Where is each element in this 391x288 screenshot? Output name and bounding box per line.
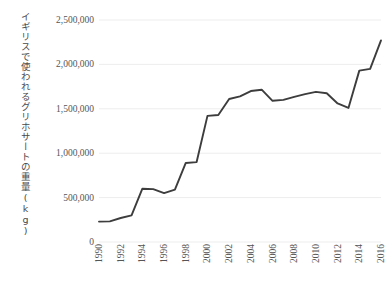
x-axis-tick-labels: 1990199219941996199820002002200420062008… xyxy=(99,244,381,288)
x-axis-tick-label: 1994 xyxy=(137,244,147,263)
x-axis-tick-label: 2016 xyxy=(376,244,386,263)
plot-area xyxy=(99,20,381,242)
y-axis-tick-labels: 0500,0001,000,0001,500,0002,000,0002,500… xyxy=(30,0,94,288)
x-axis-tick-label: 1998 xyxy=(181,244,191,263)
y-axis-tick-label: 1,000,000 xyxy=(32,148,94,158)
x-axis-tick-label: 2010 xyxy=(311,244,321,263)
series-path xyxy=(99,40,381,221)
x-axis-tick-label: 2006 xyxy=(268,244,278,263)
x-axis-tick-label: 2002 xyxy=(224,244,234,263)
x-axis-tick-label: 1992 xyxy=(116,244,126,263)
x-axis-tick-label: 2014 xyxy=(354,244,364,263)
x-axis-tick-label: 2012 xyxy=(333,244,343,263)
data-series-line xyxy=(99,20,381,242)
x-axis-tick-label: 2004 xyxy=(246,244,256,263)
y-axis-tick-label: 0 xyxy=(32,237,94,247)
x-axis-tick-label: 1990 xyxy=(94,244,104,263)
x-axis-tick-label: 1996 xyxy=(159,244,169,263)
y-axis-tick-label: 2,000,000 xyxy=(32,59,94,69)
x-axis-tick-label: 2000 xyxy=(202,244,212,263)
y-axis-tick-label: 2,500,000 xyxy=(32,15,94,25)
x-axis-tick-label: 2008 xyxy=(289,244,299,263)
y-axis-title: イギリスで使われるグリホサートの重量(kg) xyxy=(9,12,31,244)
y-axis-tick-label: 500,000 xyxy=(32,193,94,203)
y-axis-tick-label: 1,500,000 xyxy=(32,104,94,114)
glyphosate-usage-line-chart: イギリスで使われるグリホサートの重量(kg) 0500,0001,000,000… xyxy=(0,0,391,288)
